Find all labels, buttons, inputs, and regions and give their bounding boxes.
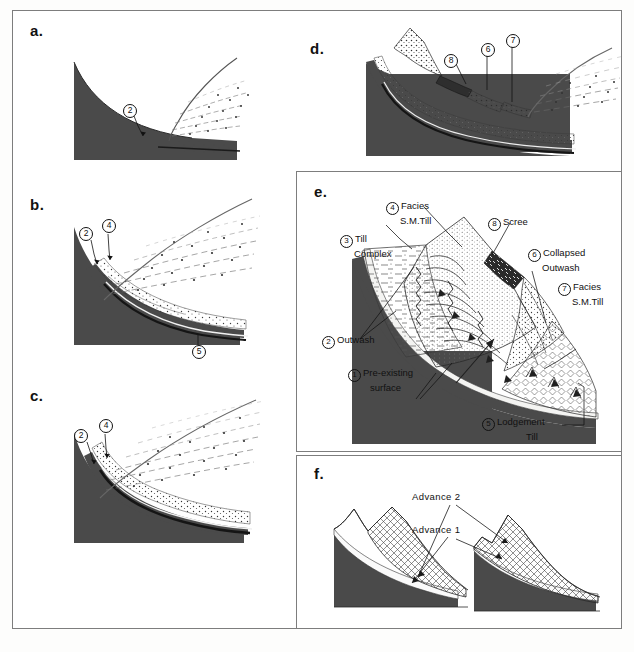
callout-circle-3: 3 [340, 235, 353, 248]
figure-root: a. [0, 0, 634, 652]
panel-e-label-7: 7Facies S.M.Till [558, 281, 628, 308]
panel-e-label-5-line1: Lodgement [497, 416, 545, 427]
panel-e-label-5: 5Lodgement Till [482, 416, 576, 443]
panel-e-label-6-line2: Outwash [542, 262, 580, 273]
panel-e-label-8-line1: Scree [503, 216, 528, 227]
panel-e-drawing [296, 171, 622, 452]
panel-e-label-3-line1: Till [355, 233, 367, 244]
panel-f: f. [296, 455, 622, 629]
panel-e-label-7-line2: S.M.Till [572, 296, 603, 307]
panel-f-label-advance-2: Advance 2 [412, 491, 461, 502]
callout-circle-8: 8 [488, 218, 501, 231]
panel-d-callout-6: 6 [481, 43, 495, 57]
panel-a: a. [12, 10, 282, 172]
panel-a-callout-2: 2 [123, 104, 137, 118]
panel-e-label-1: 1Pre-existing surface [348, 367, 434, 394]
panel-e-label-5-line2: Till [526, 431, 538, 442]
panel-d-drawing [290, 14, 624, 166]
panel-e-label-4: 4Facies S.M.Till [386, 200, 458, 227]
callout-circle-6: 6 [528, 249, 541, 262]
panel-e-label-3-line2: Complex [354, 248, 392, 259]
panel-e-label-8: 8Scree [488, 216, 528, 231]
panel-e-label-2: 2Outwash [322, 334, 375, 349]
panel-e-label-3: 3Till Complex [340, 233, 410, 260]
callout-circle-4: 4 [386, 202, 399, 215]
panel-e: e. [296, 171, 622, 452]
callout-circle-2: 2 [322, 336, 335, 349]
callout-circle-5: 5 [482, 418, 495, 431]
panel-e-label-6: 6Collapsed Outwash [528, 247, 616, 274]
panel-e-label-1-line1: Pre-existing [363, 367, 413, 378]
panel-d-callout-7: 7 [506, 34, 520, 48]
panel-d-callout-8: 8 [444, 54, 458, 68]
panel-e-label-4-line1: Facies [401, 200, 429, 211]
panel-c-callout-4: 4 [99, 419, 113, 433]
panel-b-drawing [12, 172, 282, 357]
panel-e-label-1-line2: surface [370, 382, 401, 393]
panel-e-label-2-line1: Outwash [337, 334, 375, 345]
panel-f-label-advance-1: Advance 1 [412, 524, 461, 535]
panel-e-label-7-line1: Facies [573, 281, 601, 292]
panel-c-callout-2: 2 [74, 429, 88, 443]
callout-circle-7: 7 [558, 283, 571, 296]
panel-e-label-4-line2: S.M.Till [400, 215, 431, 226]
panel-a-drawing [12, 10, 282, 172]
panel-d: d. [290, 14, 624, 166]
panel-b-callout-4: 4 [102, 219, 116, 233]
callout-circle-1: 1 [348, 369, 361, 382]
panel-c-drawing [12, 360, 282, 550]
panel-c: c. [12, 360, 282, 550]
panel-b-callout-2: 2 [79, 227, 93, 241]
panel-b: b. [12, 172, 282, 357]
panel-e-label-6-line1: Collapsed [543, 247, 585, 258]
panel-b-callout-5: 5 [192, 345, 206, 359]
panel-f-drawing [296, 455, 622, 629]
